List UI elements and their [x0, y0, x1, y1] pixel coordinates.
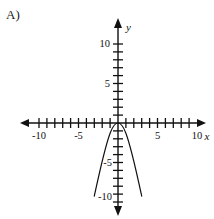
y-axis-top-arrow-icon — [114, 18, 122, 28]
y-tick-label-10: 10 — [100, 38, 111, 49]
x-tick-label-neg5: -5 — [74, 130, 83, 141]
x-tick-label-5: 5 — [155, 130, 160, 141]
y-axis-bottom-arrow-icon — [114, 206, 122, 216]
x-axis-right-arrow-icon — [197, 119, 206, 127]
y-tick-label-neg10: -10 — [98, 191, 112, 202]
x-axis — [20, 119, 206, 127]
graph-page: A) — [0, 0, 214, 219]
x-axis-name-label: x — [204, 130, 210, 142]
y-axis-name-label: y — [125, 21, 131, 33]
y-tick-label-5: 5 — [105, 78, 110, 89]
y-tick-label-neg5: -5 — [103, 157, 112, 168]
x-tick-label-neg10: -10 — [32, 130, 46, 141]
x-axis-left-arrow-icon — [20, 119, 29, 127]
x-tick-label-10: 10 — [192, 130, 203, 141]
coordinate-plane-graph: -10 -5 5 10 10 5 -5 -10 y x — [0, 0, 214, 219]
